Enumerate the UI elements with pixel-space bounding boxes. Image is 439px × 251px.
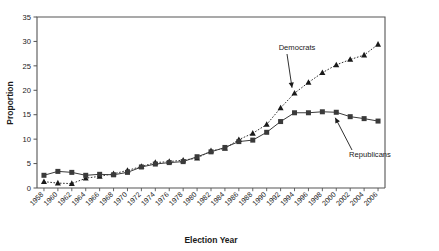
- republicans-data-point: [181, 159, 186, 164]
- plot-background: [37, 17, 385, 188]
- x-axis-title: Election Year: [184, 235, 238, 245]
- y-tick-label: 30: [23, 37, 31, 46]
- republicans-data-point: [111, 172, 116, 177]
- republicans-data-point: [83, 173, 88, 178]
- y-tick-label: 10: [23, 135, 31, 144]
- y-tick-label: 35: [23, 13, 31, 22]
- x-tick-label: 2006: [362, 190, 380, 208]
- republicans-data-point: [334, 110, 339, 115]
- republicans-data-point: [167, 160, 172, 165]
- republicans-data-point: [125, 170, 130, 175]
- republicans-data-point: [306, 110, 311, 115]
- y-tick-label: 0: [27, 184, 31, 193]
- republicans-data-point: [41, 173, 46, 178]
- democrats-annotation-label: Democrats: [279, 43, 316, 52]
- republicans-data-point: [69, 170, 74, 175]
- y-tick-label: 5: [27, 159, 31, 168]
- republicans-data-point: [376, 119, 381, 124]
- x-axis-ticks: 1958196019621964196619681970197219741976…: [28, 188, 380, 208]
- republicans-data-point: [139, 164, 144, 169]
- republicans-data-point: [362, 116, 367, 121]
- republicans-data-point: [153, 162, 158, 167]
- chart-container: 05101520253035 1958196019621964196619681…: [0, 0, 439, 251]
- proportion-by-election-year-chart: 05101520253035 1958196019621964196619681…: [0, 0, 439, 251]
- republicans-data-point: [195, 154, 200, 159]
- y-tick-label: 15: [23, 110, 31, 119]
- republicans-data-point: [320, 109, 325, 114]
- y-tick-label: 20: [23, 86, 31, 95]
- republicans-data-point: [292, 110, 297, 115]
- y-tick-label: 25: [23, 62, 31, 71]
- republicans-data-point: [209, 149, 214, 154]
- plot-frame: [37, 17, 385, 188]
- republicans-data-point: [236, 139, 241, 144]
- republicans-data-point: [278, 119, 283, 124]
- y-axis-title: Proportion: [5, 81, 15, 124]
- republicans-data-point: [348, 114, 353, 119]
- republicans-data-point: [55, 169, 60, 174]
- republicans-data-point: [222, 145, 227, 150]
- republicans-data-point: [97, 172, 102, 177]
- republicans-annotation-label: Republicans: [349, 150, 391, 159]
- y-axis-ticks: 05101520253035: [23, 13, 37, 193]
- republicans-data-point: [264, 130, 269, 135]
- republicans-data-point: [250, 138, 255, 143]
